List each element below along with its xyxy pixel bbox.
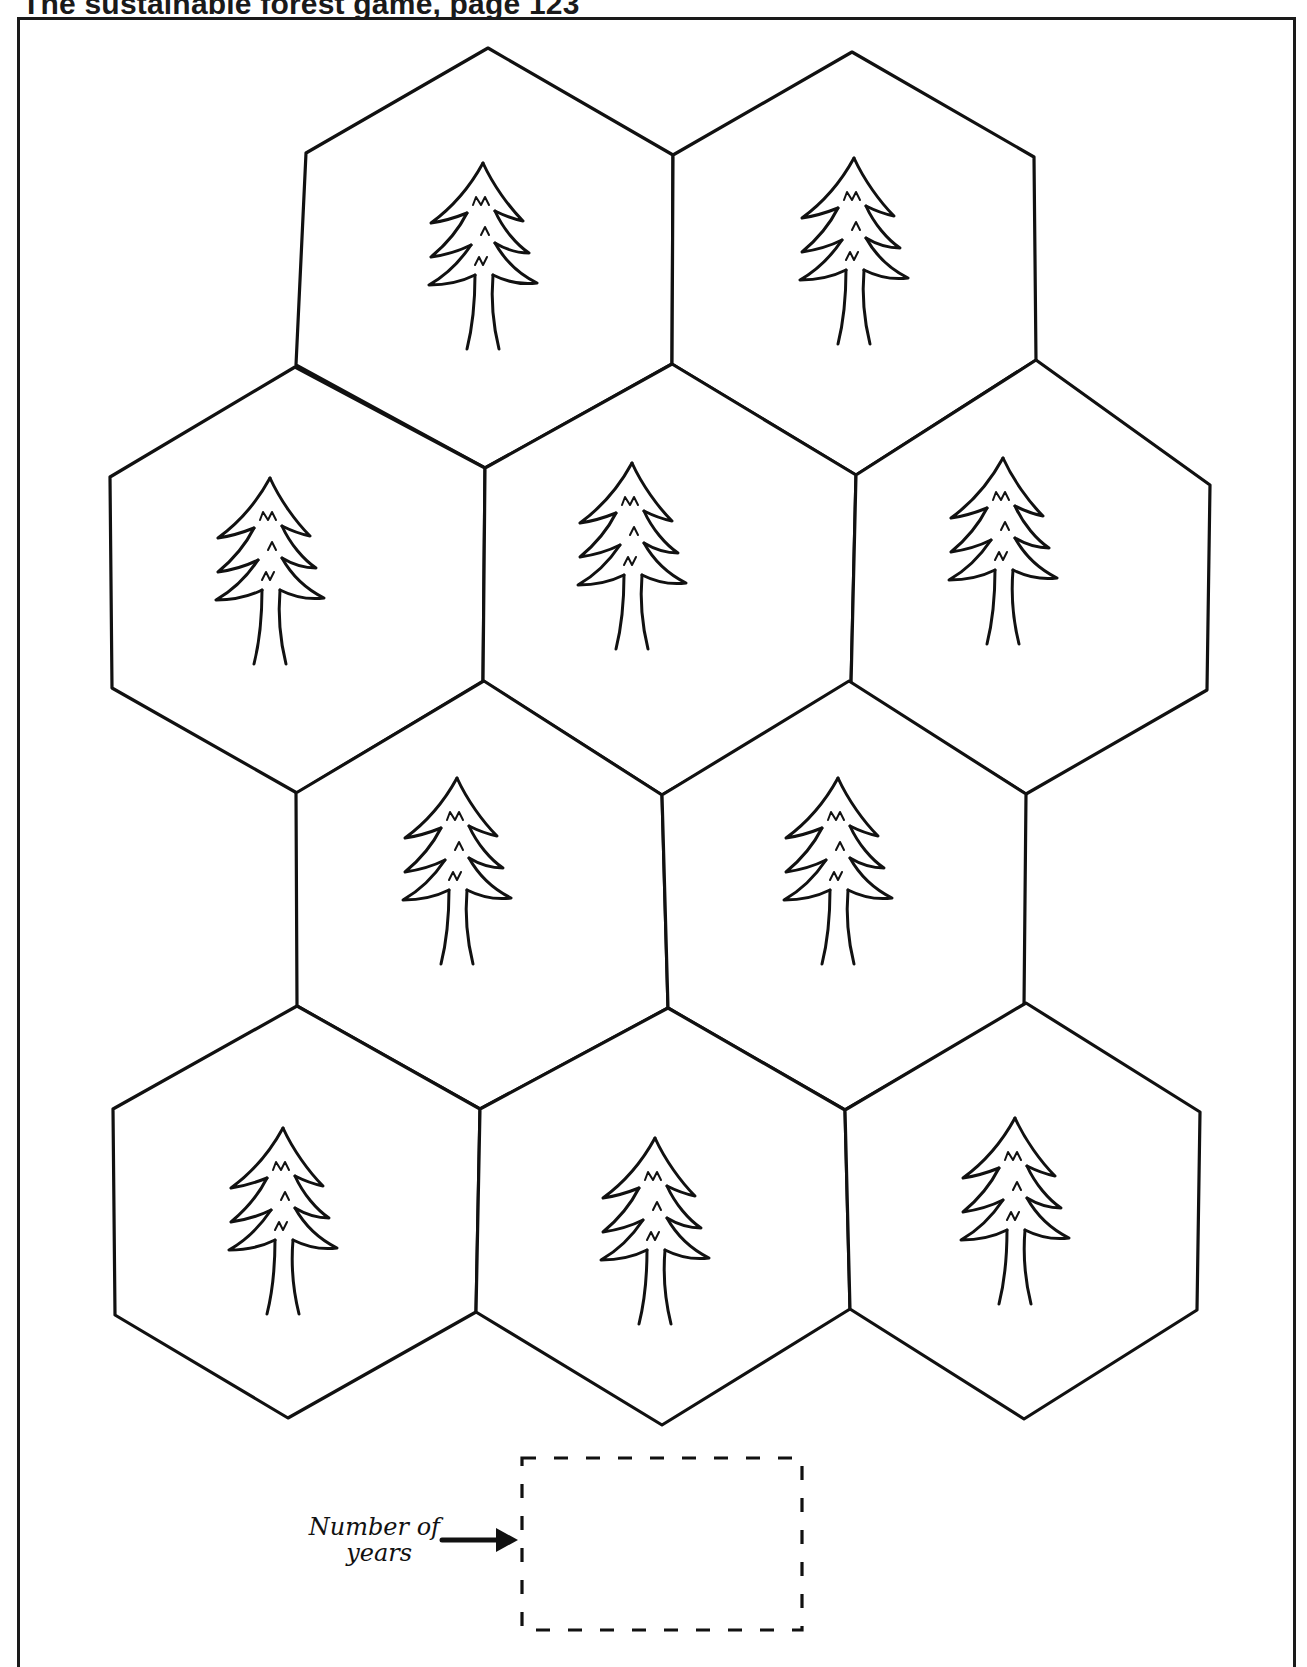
years-label-line2: years (270, 1540, 440, 1566)
years-counter-box[interactable] (522, 1458, 802, 1630)
years-label-line1: Number of (270, 1514, 440, 1540)
arrow-right-icon (442, 1528, 518, 1552)
hex-tiles (110, 48, 1210, 1425)
years-label: Number of years (270, 1514, 440, 1566)
